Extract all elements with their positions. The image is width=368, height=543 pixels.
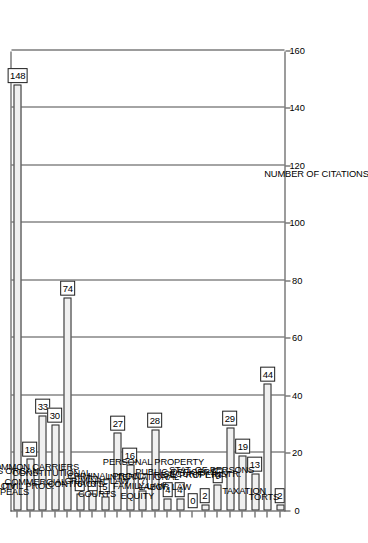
category-label-text: TORTS bbox=[248, 493, 278, 502]
bar-group bbox=[13, 50, 21, 510]
category-tick bbox=[229, 511, 230, 517]
bar-group bbox=[176, 50, 184, 510]
bar-value-label: 19 bbox=[234, 439, 249, 454]
value-tick-label: 20 bbox=[292, 449, 302, 458]
value-tick-label: 0 bbox=[294, 506, 299, 515]
bar-group bbox=[51, 50, 59, 510]
category-label-text: EQUITY bbox=[120, 491, 154, 500]
bar-group bbox=[263, 50, 271, 510]
category-tick bbox=[216, 511, 217, 517]
value-tick-label: 160 bbox=[289, 46, 304, 55]
category-tick bbox=[29, 511, 30, 517]
category-tick bbox=[179, 511, 180, 517]
category-tick bbox=[204, 511, 205, 517]
bar-group bbox=[113, 50, 121, 510]
category-tick bbox=[279, 511, 280, 517]
value-tick-label: 60 bbox=[292, 334, 302, 343]
bar bbox=[276, 504, 284, 510]
bar bbox=[176, 499, 184, 511]
category-label-text: COURTS bbox=[78, 489, 116, 498]
bar bbox=[213, 484, 221, 510]
category-tick bbox=[266, 511, 267, 517]
category-tick bbox=[16, 511, 17, 517]
bar bbox=[163, 499, 171, 511]
bar bbox=[13, 85, 21, 511]
value-tick bbox=[285, 453, 290, 454]
category-tick bbox=[104, 511, 105, 517]
bar-group bbox=[76, 50, 84, 510]
bar-value-label: 44 bbox=[259, 367, 274, 382]
value-tick bbox=[285, 280, 290, 281]
category-tick bbox=[66, 511, 67, 517]
bar-group bbox=[251, 50, 259, 510]
bar-group bbox=[126, 50, 134, 510]
category-tick bbox=[166, 511, 167, 517]
category-label-text: STAT. OF PERSONS bbox=[168, 466, 253, 475]
category-label-text: LABOR LAW bbox=[138, 482, 191, 491]
value-tick-label: 40 bbox=[292, 391, 302, 400]
value-tick bbox=[285, 510, 290, 511]
bar-value-label: 2 bbox=[199, 487, 209, 502]
value-axis-title-label: NUMBER OF CITATIONS bbox=[264, 168, 368, 178]
plot-area: 14818333074665271672844029291913442 bbox=[10, 51, 285, 511]
value-tick-label: 80 bbox=[292, 276, 302, 285]
category-tick bbox=[191, 511, 192, 517]
value-tick-label: 100 bbox=[289, 219, 304, 228]
value-tick-label: 140 bbox=[289, 104, 304, 113]
bar-value-label: 18 bbox=[22, 441, 37, 456]
bar-group bbox=[101, 50, 109, 510]
value-tick bbox=[285, 338, 290, 339]
bar-group bbox=[226, 50, 234, 510]
bar-value-label: 74 bbox=[59, 280, 74, 295]
category-tick bbox=[41, 511, 42, 517]
category-tick bbox=[141, 511, 142, 517]
bar-value-label: 0 bbox=[187, 493, 197, 508]
bar-value-label: 30 bbox=[47, 407, 62, 422]
bar-group bbox=[188, 50, 196, 510]
bar-group bbox=[88, 50, 96, 510]
bar bbox=[238, 455, 246, 510]
bar-group bbox=[201, 50, 209, 510]
bar-value-label: 148 bbox=[7, 68, 27, 83]
category-tick bbox=[241, 511, 242, 517]
bar-group bbox=[151, 50, 159, 510]
category-tick bbox=[129, 511, 130, 517]
category-tick bbox=[91, 511, 92, 517]
bar-group bbox=[163, 50, 171, 510]
bar-value-label: 28 bbox=[147, 413, 162, 428]
bar-group bbox=[276, 50, 284, 510]
bar-group bbox=[138, 50, 146, 510]
category-tick bbox=[116, 511, 117, 517]
bar-group bbox=[38, 50, 46, 510]
bar bbox=[201, 504, 209, 510]
category-tick bbox=[254, 511, 255, 517]
category-tick bbox=[54, 511, 55, 517]
value-tick bbox=[285, 395, 290, 396]
category-tick bbox=[79, 511, 80, 517]
bar-group bbox=[213, 50, 221, 510]
bar-value-label: 29 bbox=[222, 410, 237, 425]
bar-value-label: 27 bbox=[109, 416, 124, 431]
category-tick bbox=[154, 511, 155, 517]
value-axis: 020406080100120140160 bbox=[285, 51, 325, 511]
